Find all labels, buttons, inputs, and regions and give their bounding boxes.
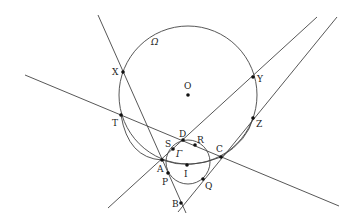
arc-cz [221, 118, 253, 157]
arc-aic [162, 157, 221, 164]
arc-tac-z [121, 115, 162, 160]
label-p: P [162, 177, 168, 187]
label-x: X [112, 67, 119, 77]
label-b: B [172, 199, 179, 209]
diagram-svg: X Y O T Z D S R C A I P Q B Ω Γ [0, 0, 360, 222]
point-s [171, 147, 175, 151]
point-p [166, 171, 170, 175]
point-a [160, 158, 164, 162]
label-i: I [184, 169, 188, 179]
label-y: Y [256, 74, 264, 84]
label-gamma: Γ [175, 149, 183, 159]
label-c: C [216, 144, 223, 154]
label-omega: Ω [150, 37, 159, 47]
line-bcz [178, 17, 337, 212]
point-o [186, 93, 190, 97]
line-xab [98, 15, 186, 213]
label-s: S [165, 139, 171, 149]
point-t [119, 113, 123, 117]
label-o: O [184, 81, 191, 91]
label-a: A [156, 164, 164, 174]
label-t: T [112, 118, 118, 128]
point-b [179, 201, 183, 205]
point-c [219, 155, 223, 159]
label-d: D [179, 129, 186, 139]
label-z: Z [256, 119, 262, 129]
point-x [121, 70, 125, 74]
point-z [251, 116, 255, 120]
label-q: Q [205, 181, 212, 191]
geometry-diagram: X Y O T Z D S R C A I P Q B Ω Γ [0, 0, 360, 222]
point-i [185, 163, 189, 167]
label-r: R [197, 135, 204, 145]
point-y [251, 75, 255, 79]
